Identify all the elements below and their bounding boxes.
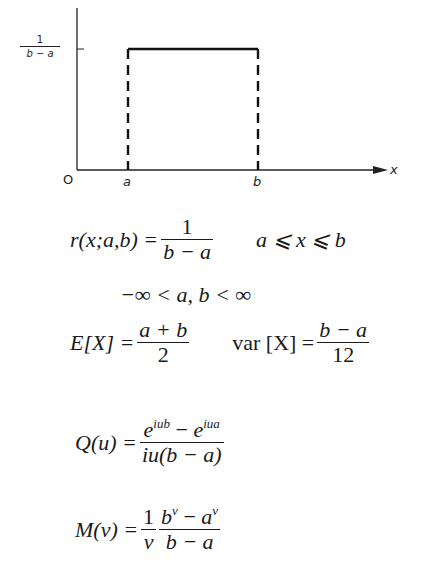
- moment-fraction-2: bv − av b − a: [159, 505, 220, 554]
- mean-numerator: a + b: [137, 318, 189, 342]
- density-formula: r(x;a,b) = 1 b − a a ⩽ x ⩽ b: [70, 215, 346, 264]
- moment-frac1-numerator: 1: [141, 505, 156, 529]
- density-lhs: r(x;a,b) =: [70, 227, 158, 253]
- mean-denominator: 2: [156, 343, 171, 367]
- cf-denominator: iu(b − a): [140, 443, 224, 467]
- variance-fraction: b − a 12: [317, 318, 369, 367]
- y-tick-label: 1 b − a: [20, 34, 60, 59]
- moment-lhs: M(v) =: [75, 517, 138, 543]
- parameter-range: −∞ < a, b < ∞: [120, 282, 251, 308]
- graph-svg: [0, 0, 440, 200]
- density-condition: a ⩽ x ⩽ b: [256, 227, 346, 253]
- characteristic-function-formula: Q(u) = eiub − eiua iu(b − a): [75, 418, 227, 467]
- a-label: a: [123, 175, 131, 188]
- density-denominator: b − a: [161, 240, 213, 264]
- cf-minus: −: [170, 417, 193, 442]
- moment-frac2-denominator: b − a: [164, 530, 216, 554]
- cf-exp1: iub: [153, 416, 170, 431]
- moment-formula: M(v) = 1 v bv − av b − a: [75, 505, 223, 554]
- cf-e2: e: [193, 417, 203, 442]
- cf-exp2: iua: [203, 416, 220, 431]
- density-numerator: 1: [180, 215, 195, 239]
- moment-frac1-denominator: v: [142, 530, 156, 554]
- moment-a: a: [201, 504, 212, 529]
- x-axis-label: x: [390, 163, 398, 176]
- origin-label: O: [63, 173, 73, 186]
- density-graph: 1 b − a O a b x: [0, 0, 440, 200]
- y-tick-numerator: 1: [20, 34, 60, 45]
- variance-lhs: var [X] =: [232, 330, 314, 356]
- moment-minus: −: [178, 504, 201, 529]
- moment-b: b: [161, 504, 172, 529]
- y-tick-fraction-bar: [20, 46, 60, 47]
- cf-numerator: eiub − eiua: [142, 418, 222, 442]
- x-axis-arrow-icon: [373, 166, 388, 174]
- cf-e1: e: [144, 417, 154, 442]
- parameter-range-text: −∞ < a, b < ∞: [120, 282, 251, 308]
- mean-lhs: E[X] =: [70, 330, 134, 356]
- mean-variance-formula: E[X] = a + b 2 var [X] = b − a 12: [70, 318, 372, 367]
- mean-fraction: a + b 2: [137, 318, 189, 367]
- moment-frac2-numerator: bv − av: [159, 505, 220, 529]
- variance-denominator: 12: [330, 343, 356, 367]
- b-label: b: [253, 175, 261, 188]
- density-fraction: 1 b − a: [161, 215, 213, 264]
- y-tick-denominator: b − a: [20, 48, 60, 59]
- moment-fraction-1: 1 v: [141, 505, 156, 554]
- moment-exp2: v: [212, 503, 218, 518]
- cf-fraction: eiub − eiua iu(b − a): [140, 418, 224, 467]
- cf-lhs: Q(u) =: [75, 430, 137, 456]
- variance-numerator: b − a: [317, 318, 369, 342]
